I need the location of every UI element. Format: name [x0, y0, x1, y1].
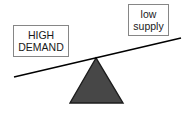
label-box-high-demand: HIGH DEMAND — [13, 25, 69, 57]
high-demand-line-2: DEMAND — [18, 41, 64, 53]
seesaw-diagram: HIGH DEMAND low supply — [0, 0, 194, 116]
low-supply-line-1: low — [141, 8, 157, 20]
low-supply-line-2: supply — [133, 20, 163, 32]
high-demand-line-1: HIGH — [28, 29, 54, 41]
fulcrum-triangle-icon — [70, 58, 123, 103]
label-box-low-supply: low supply — [128, 4, 169, 36]
